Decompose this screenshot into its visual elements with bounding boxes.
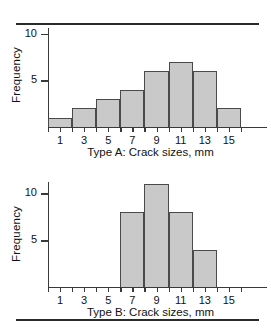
histogram-bar bbox=[193, 71, 217, 127]
x-tick-label-3: 3 bbox=[75, 134, 93, 146]
x-tick-15 bbox=[229, 287, 230, 292]
y-tick-10: 10 bbox=[41, 34, 48, 35]
bottom-divider-rule bbox=[16, 319, 259, 321]
x-tick-label-7: 7 bbox=[123, 294, 141, 306]
x-tick-7 bbox=[132, 127, 133, 132]
y-axis-label-b: Frequency bbox=[10, 182, 22, 286]
x-tick-label-9: 9 bbox=[148, 134, 166, 146]
x-tick-edge-4 bbox=[96, 287, 97, 292]
x-tick-label-15: 15 bbox=[220, 294, 238, 306]
x-tick-1 bbox=[60, 127, 61, 132]
histogram-bar bbox=[96, 99, 120, 127]
y-tick-5: 5 bbox=[41, 80, 48, 81]
x-tick-edge-8 bbox=[144, 127, 145, 132]
x-tick-label-13: 13 bbox=[196, 294, 214, 306]
histogram-bar bbox=[169, 212, 193, 287]
x-tick-edge-4 bbox=[96, 127, 97, 132]
x-tick-label-11: 11 bbox=[172, 294, 190, 306]
x-tick-3 bbox=[84, 127, 85, 132]
y-tick-10: 10 bbox=[41, 193, 48, 194]
plot-area-b: 51013579111315 bbox=[48, 182, 253, 287]
histogram-type-a: Frequency 51013579111315 Type A: Crack s… bbox=[0, 28, 271, 156]
x-tick-edge-14 bbox=[217, 287, 218, 292]
y-tick-label-10: 10 bbox=[25, 186, 37, 198]
x-tick-edge-8 bbox=[144, 287, 145, 292]
x-tick-edge-10 bbox=[169, 127, 170, 132]
x-tick-label-1: 1 bbox=[51, 294, 69, 306]
histogram-bar bbox=[144, 184, 168, 287]
x-tick-edge-6 bbox=[120, 127, 121, 132]
y-axis-a bbox=[48, 28, 49, 127]
histogram-bar bbox=[72, 108, 96, 127]
x-tick-label-9: 9 bbox=[148, 294, 166, 306]
x-tick-5 bbox=[108, 287, 109, 292]
x-tick-edge-12 bbox=[193, 127, 194, 132]
x-tick-15 bbox=[229, 127, 230, 132]
x-tick-edge-0 bbox=[48, 127, 49, 132]
x-tick-edge-0 bbox=[48, 287, 49, 292]
x-tick-label-15: 15 bbox=[220, 134, 238, 146]
y-tick-label-10: 10 bbox=[25, 27, 37, 39]
y-tick-label-5: 5 bbox=[31, 233, 37, 245]
x-tick-label-5: 5 bbox=[99, 134, 117, 146]
y-axis-label-a: Frequency bbox=[10, 23, 22, 127]
x-tick-label-11: 11 bbox=[172, 134, 190, 146]
histogram-bar bbox=[169, 62, 193, 127]
x-tick-11 bbox=[181, 287, 182, 292]
caption-a: Type A: Crack sizes, mm bbox=[0, 146, 271, 158]
x-tick-5 bbox=[108, 127, 109, 132]
histogram-bar bbox=[217, 108, 241, 127]
y-tick-5: 5 bbox=[41, 240, 48, 241]
histogram-bar bbox=[48, 118, 72, 127]
x-tick-edge-10 bbox=[169, 287, 170, 292]
x-tick-label-7: 7 bbox=[123, 134, 141, 146]
x-tick-edge-2 bbox=[72, 127, 73, 132]
x-tick-label-3: 3 bbox=[75, 294, 93, 306]
x-tick-edge-16 bbox=[241, 287, 242, 292]
x-tick-11 bbox=[181, 127, 182, 132]
x-tick-edge-16 bbox=[241, 127, 242, 132]
x-tick-edge-2 bbox=[72, 287, 73, 292]
x-tick-9 bbox=[157, 127, 158, 132]
x-tick-edge-12 bbox=[193, 287, 194, 292]
x-tick-7 bbox=[132, 287, 133, 292]
histogram-bar bbox=[120, 90, 144, 127]
y-tick-label-5: 5 bbox=[31, 73, 37, 85]
histogram-bar bbox=[144, 71, 168, 127]
y-axis-b bbox=[48, 182, 49, 287]
caption-b: Type B: Crack sizes, mm bbox=[0, 306, 271, 318]
top-divider-rule bbox=[16, 23, 259, 25]
x-tick-13 bbox=[205, 287, 206, 292]
x-tick-1 bbox=[60, 287, 61, 292]
figure-page: Frequency 51013579111315 Type A: Crack s… bbox=[0, 0, 271, 332]
x-tick-label-1: 1 bbox=[51, 134, 69, 146]
caption-a-text: Type A: Crack sizes, mm bbox=[57, 146, 214, 158]
x-tick-edge-14 bbox=[217, 127, 218, 132]
x-tick-edge-6 bbox=[120, 287, 121, 292]
histogram-type-b: Frequency 51013579111315 Type B: Crack s… bbox=[0, 182, 271, 318]
x-tick-label-5: 5 bbox=[99, 294, 117, 306]
histogram-bar bbox=[120, 212, 144, 287]
caption-b-text: Type B: Crack sizes, mm bbox=[57, 306, 214, 318]
histogram-bar bbox=[193, 250, 217, 288]
x-tick-9 bbox=[157, 287, 158, 292]
x-tick-label-13: 13 bbox=[196, 134, 214, 146]
x-tick-3 bbox=[84, 287, 85, 292]
plot-area-a: 51013579111315 bbox=[48, 28, 253, 127]
x-tick-13 bbox=[205, 127, 206, 132]
